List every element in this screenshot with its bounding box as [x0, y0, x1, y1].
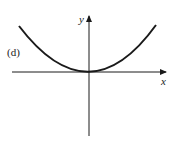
x-axis-label: x	[161, 76, 166, 87]
panel-label: (d)	[7, 47, 20, 58]
graph	[0, 0, 177, 146]
y-axis-label: y	[79, 14, 84, 25]
parabola-curve	[19, 25, 156, 72]
